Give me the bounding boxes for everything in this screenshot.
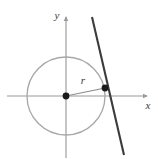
radius-segment [66, 88, 105, 96]
y-axis-label: y [54, 9, 60, 21]
radius-label: r [81, 74, 86, 86]
x-axis-label: x [145, 99, 151, 111]
tangent-line [92, 17, 124, 155]
tangent-point [102, 85, 109, 92]
figure-canvas: y x r [0, 0, 158, 159]
center-point [63, 93, 70, 100]
circle-tangent-diagram: y x r [0, 0, 158, 159]
